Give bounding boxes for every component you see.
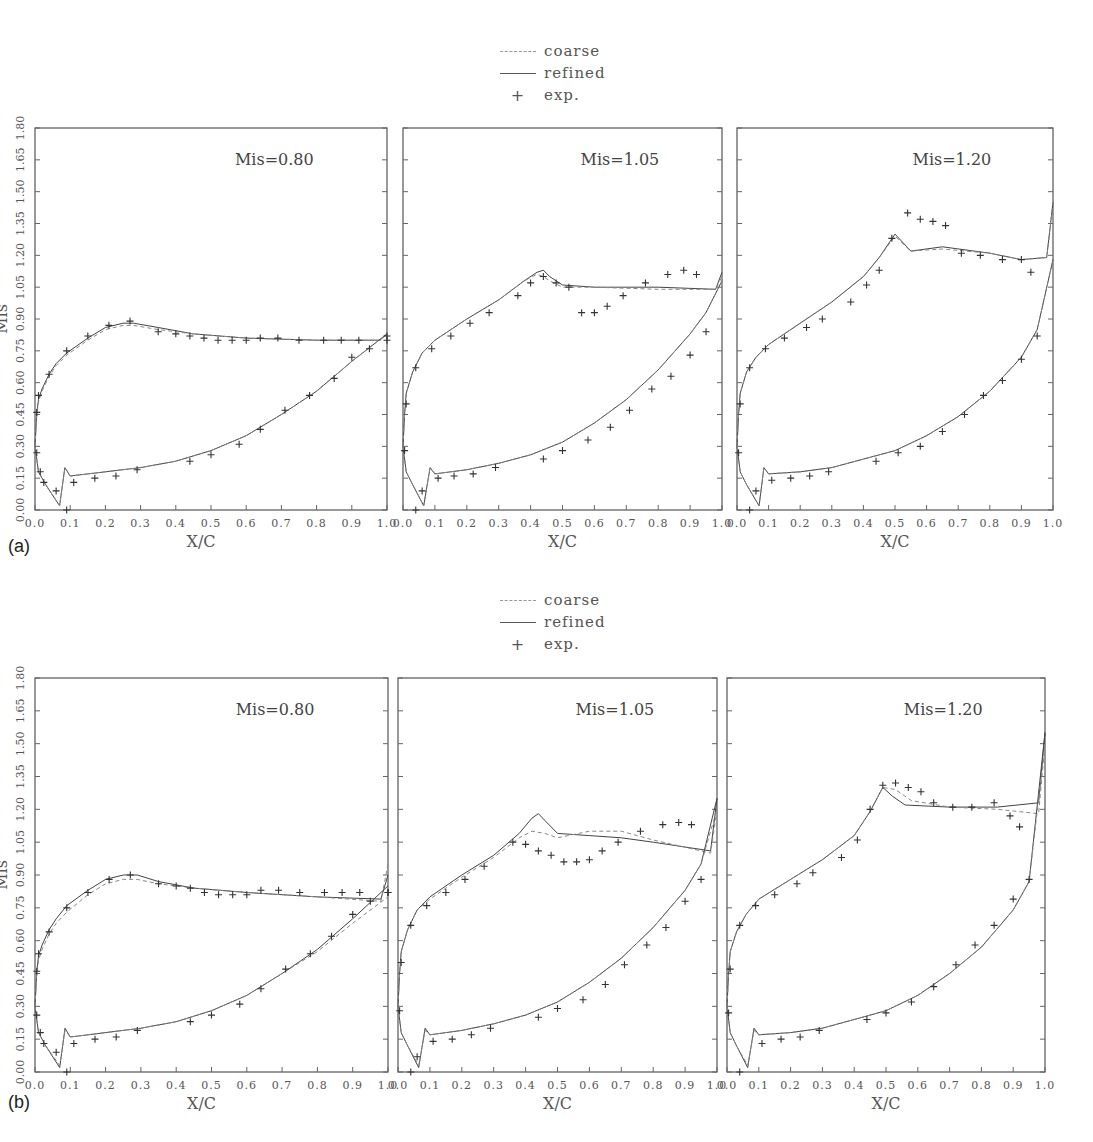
dashed-line-swatch-icon <box>500 600 536 601</box>
exp-marker <box>604 303 611 310</box>
x-tick-label: 0.8 <box>307 1079 328 1092</box>
x-tick-label: 0.7 <box>948 517 969 530</box>
exp-marker <box>105 322 112 329</box>
coarse-curve <box>403 274 722 446</box>
x-tick-label: 0.5 <box>201 1079 222 1092</box>
y-tick-label: 0.45 <box>14 402 27 427</box>
exp-marker <box>667 373 674 380</box>
exp-marker <box>384 332 391 339</box>
exp-marker <box>187 1018 194 1025</box>
exp-marker <box>275 887 282 894</box>
y-tick-label: 1.05 <box>14 275 27 300</box>
exp-marker <box>331 375 338 382</box>
y-tick-label: 1.80 <box>14 116 27 141</box>
exp-marker <box>540 273 547 280</box>
x-tick-label: 0.3 <box>483 1079 504 1092</box>
x-tick-label: 0.8 <box>980 517 1001 530</box>
exp-marker <box>257 985 264 992</box>
panel-title: Mis=0.80 <box>235 150 314 169</box>
exp-marker <box>320 337 327 344</box>
exp-marker <box>296 889 303 896</box>
exp-marker <box>727 966 734 973</box>
exp-marker <box>580 996 587 1003</box>
x-axis-label: X/C <box>880 532 909 551</box>
y-tick-label: 0.75 <box>14 339 27 364</box>
x-tick-label: 0.3 <box>822 517 843 530</box>
coarse-curve <box>737 260 1053 506</box>
y-tick-label: 0.90 <box>14 307 27 332</box>
plot-panel: 0.00.10.20.30.40.50.60.70.80.91.0X/C0.00… <box>0 116 397 551</box>
x-tick-label: 0.5 <box>876 1079 897 1092</box>
exp-marker <box>430 1038 437 1045</box>
exp-marker <box>84 889 91 896</box>
refined-curve <box>35 323 387 446</box>
exp-marker <box>468 1031 475 1038</box>
exp-marker <box>53 487 60 494</box>
exp-marker <box>680 267 687 274</box>
exp-marker <box>803 324 810 331</box>
x-tick-label: 0.8 <box>648 517 669 530</box>
figure-label-a: (a) <box>8 536 30 557</box>
exp-marker <box>1018 356 1025 363</box>
refined-curve <box>35 334 387 506</box>
exp-marker <box>682 898 689 905</box>
exp-marker <box>939 428 946 435</box>
exp-marker <box>662 924 669 931</box>
exp-marker <box>762 345 769 352</box>
y-tick-label: 1.80 <box>14 666 27 691</box>
exp-marker <box>999 256 1006 263</box>
x-axis-label: X/C <box>871 1094 900 1113</box>
x-tick-label: 0.1 <box>425 517 446 530</box>
exp-marker <box>698 876 705 883</box>
exp-marker <box>961 411 968 418</box>
x-tick-label: 0.9 <box>1003 1079 1024 1092</box>
refined-curve <box>398 798 717 1006</box>
exp-marker <box>492 464 499 471</box>
x-axis-label: X/C <box>186 532 215 551</box>
x-tick-label: 0.1 <box>60 1079 81 1092</box>
exp-marker <box>1026 876 1033 883</box>
exp-marker <box>449 1036 456 1043</box>
exp-marker <box>548 852 555 859</box>
exp-marker <box>407 1069 414 1076</box>
y-tick-label: 0.00 <box>14 1060 27 1085</box>
exp-marker <box>736 922 743 929</box>
exp-marker <box>486 309 493 316</box>
exp-marker <box>873 458 880 465</box>
exp-marker <box>356 889 363 896</box>
x-tick-label: 0.4 <box>520 517 541 530</box>
exp-marker <box>771 891 778 898</box>
exp-marker <box>527 279 534 286</box>
exp-marker <box>435 475 442 482</box>
x-tick-label: 0.1 <box>758 517 779 530</box>
exp-marker <box>942 222 949 229</box>
exp-marker <box>838 854 845 861</box>
x-axis-label: X/C <box>187 1094 216 1113</box>
exp-marker <box>385 889 392 896</box>
exp-marker <box>208 451 215 458</box>
x-tick-label: 0.0 <box>727 517 748 530</box>
legend-a: coarse refined +exp. <box>500 40 606 106</box>
exp-marker <box>554 1005 561 1012</box>
x-tick-label: 1.0 <box>1035 1079 1056 1092</box>
exp-marker <box>688 821 695 828</box>
exp-marker <box>930 983 937 990</box>
legend-entry-coarse: coarse <box>500 40 606 62</box>
exp-marker <box>602 981 609 988</box>
exp-marker <box>752 487 759 494</box>
x-tick-label: 0.2 <box>780 1079 801 1092</box>
exp-marker <box>113 1033 120 1040</box>
y-tick-label: 1.05 <box>14 830 27 855</box>
x-tick-label: 0.8 <box>643 1079 664 1092</box>
panel-title: Mis=1.05 <box>576 700 655 719</box>
exp-marker <box>905 784 912 791</box>
exp-marker <box>487 1025 494 1032</box>
exp-marker <box>70 1040 77 1047</box>
refined-curve <box>398 798 717 1067</box>
exp-marker <box>758 1040 765 1047</box>
exp-marker <box>787 475 794 482</box>
exp-marker <box>447 332 454 339</box>
coarse-curve <box>727 744 1045 1007</box>
x-tick-label: 0.6 <box>916 517 937 530</box>
exp-marker <box>540 456 547 463</box>
